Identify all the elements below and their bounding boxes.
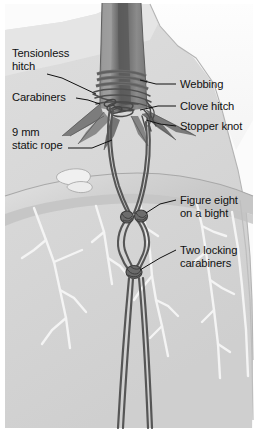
label-carabiners: Carabiners: [12, 91, 66, 104]
label-stopper-knot: Stopper knot: [180, 120, 242, 133]
anchor-diagram-figure: Tensionless hitch Carabiners 9 mm static…: [0, 0, 258, 435]
carabiner-lower: [126, 266, 142, 279]
label-tensionless-hitch: Tensionless hitch: [12, 47, 69, 73]
carabiner-upper-right: [135, 210, 148, 222]
label-figure-eight-on-a-bight: Figure eight on a bight: [180, 194, 238, 220]
carabiner-upper-left: [121, 211, 134, 223]
label-clove-hitch: Clove hitch: [180, 100, 234, 113]
label-webbing: Webbing: [180, 78, 223, 91]
label-two-locking-carabiners: Two locking carabiners: [180, 244, 237, 270]
label-static-rope: 9 mm static rope: [12, 126, 63, 152]
